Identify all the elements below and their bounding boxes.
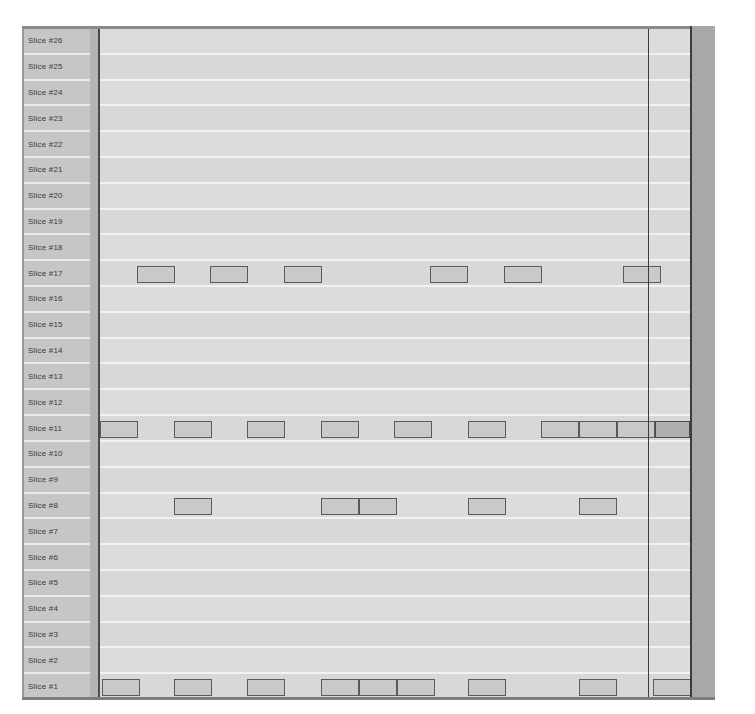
task-block[interactable] bbox=[623, 266, 661, 283]
task-block[interactable] bbox=[102, 679, 140, 696]
row-label-slice-17[interactable]: Slice #17 bbox=[24, 261, 92, 287]
grid-row bbox=[100, 519, 690, 545]
task-block[interactable] bbox=[321, 679, 359, 696]
grid-row bbox=[100, 132, 690, 158]
grid-row bbox=[100, 648, 690, 674]
row-label-slice-4[interactable]: Slice #4 bbox=[24, 597, 92, 623]
task-block[interactable] bbox=[210, 266, 248, 283]
grid-row bbox=[100, 55, 690, 81]
row-label-slice-16[interactable]: Slice #16 bbox=[24, 287, 92, 313]
grid-row bbox=[100, 287, 690, 313]
task-block[interactable] bbox=[359, 498, 397, 515]
task-block[interactable] bbox=[579, 679, 617, 696]
grid-row bbox=[100, 106, 690, 132]
task-block[interactable] bbox=[321, 421, 359, 438]
task-block[interactable] bbox=[247, 679, 285, 696]
grid-row bbox=[100, 313, 690, 339]
row-label-column[interactable]: Slice #26Slice #25Slice #24Slice #23Slic… bbox=[22, 29, 90, 700]
task-block[interactable] bbox=[174, 679, 212, 696]
row-label-slice-6[interactable]: Slice #6 bbox=[24, 545, 92, 571]
right-scroll-band[interactable] bbox=[690, 26, 715, 700]
task-block[interactable] bbox=[174, 421, 212, 438]
row-label-slice-12[interactable]: Slice #12 bbox=[24, 390, 92, 416]
row-label-slice-22[interactable]: Slice #22 bbox=[24, 132, 92, 158]
task-block[interactable] bbox=[504, 266, 542, 283]
task-block[interactable] bbox=[394, 421, 432, 438]
chart-bottom-edge bbox=[22, 697, 715, 700]
grid-row bbox=[100, 158, 690, 184]
grid-row bbox=[100, 184, 690, 210]
row-label-slice-19[interactable]: Slice #19 bbox=[24, 210, 92, 236]
task-block[interactable] bbox=[100, 421, 138, 438]
row-label-slice-24[interactable]: Slice #24 bbox=[24, 81, 92, 107]
grid-row bbox=[100, 210, 690, 236]
row-label-slice-20[interactable]: Slice #20 bbox=[24, 184, 92, 210]
row-label-slice-13[interactable]: Slice #13 bbox=[24, 365, 92, 391]
grid-row bbox=[100, 29, 690, 55]
task-block[interactable] bbox=[359, 679, 397, 696]
row-label-slice-26[interactable]: Slice #26 bbox=[24, 29, 92, 55]
row-label-slice-3[interactable]: Slice #3 bbox=[24, 623, 92, 649]
row-label-slice-21[interactable]: Slice #21 bbox=[24, 158, 92, 184]
label-plot-gutter bbox=[90, 29, 100, 700]
task-block[interactable] bbox=[137, 266, 175, 283]
task-block[interactable] bbox=[617, 421, 655, 438]
task-block[interactable] bbox=[321, 498, 359, 515]
plot-area[interactable] bbox=[100, 29, 690, 700]
row-label-slice-15[interactable]: Slice #15 bbox=[24, 313, 92, 339]
row-label-slice-25[interactable]: Slice #25 bbox=[24, 55, 92, 81]
task-block[interactable] bbox=[579, 421, 617, 438]
row-label-slice-23[interactable]: Slice #23 bbox=[24, 106, 92, 132]
row-label-slice-9[interactable]: Slice #9 bbox=[24, 468, 92, 494]
grid-row bbox=[100, 468, 690, 494]
task-block[interactable] bbox=[468, 421, 506, 438]
vertical-marker-line bbox=[648, 29, 649, 700]
row-label-slice-18[interactable]: Slice #18 bbox=[24, 235, 92, 261]
row-label-slice-11[interactable]: Slice #11 bbox=[24, 416, 92, 442]
grid-row bbox=[100, 597, 690, 623]
task-block[interactable] bbox=[397, 679, 435, 696]
grid-row bbox=[100, 623, 690, 649]
task-block[interactable] bbox=[579, 498, 617, 515]
task-block[interactable] bbox=[468, 498, 506, 515]
task-block[interactable] bbox=[284, 266, 322, 283]
task-block[interactable] bbox=[655, 421, 690, 438]
row-label-slice-2[interactable]: Slice #2 bbox=[24, 648, 92, 674]
task-block[interactable] bbox=[653, 679, 690, 696]
row-label-slice-8[interactable]: Slice #8 bbox=[24, 494, 92, 520]
row-label-slice-7[interactable]: Slice #7 bbox=[24, 519, 92, 545]
row-label-slice-5[interactable]: Slice #5 bbox=[24, 571, 92, 597]
task-block[interactable] bbox=[247, 421, 285, 438]
grid-row bbox=[100, 545, 690, 571]
chart-canvas: Slice #26Slice #25Slice #24Slice #23Slic… bbox=[0, 0, 755, 714]
grid-row bbox=[100, 261, 690, 287]
row-label-slice-10[interactable]: Slice #10 bbox=[24, 442, 92, 468]
grid-row bbox=[100, 365, 690, 391]
grid-row bbox=[100, 571, 690, 597]
task-block[interactable] bbox=[468, 679, 506, 696]
row-label-slice-14[interactable]: Slice #14 bbox=[24, 339, 92, 365]
grid-row bbox=[100, 442, 690, 468]
task-block[interactable] bbox=[174, 498, 212, 515]
grid-row bbox=[100, 81, 690, 107]
grid-row bbox=[100, 235, 690, 261]
task-block[interactable] bbox=[541, 421, 579, 438]
task-block[interactable] bbox=[430, 266, 468, 283]
grid-row bbox=[100, 339, 690, 365]
grid-row bbox=[100, 390, 690, 416]
